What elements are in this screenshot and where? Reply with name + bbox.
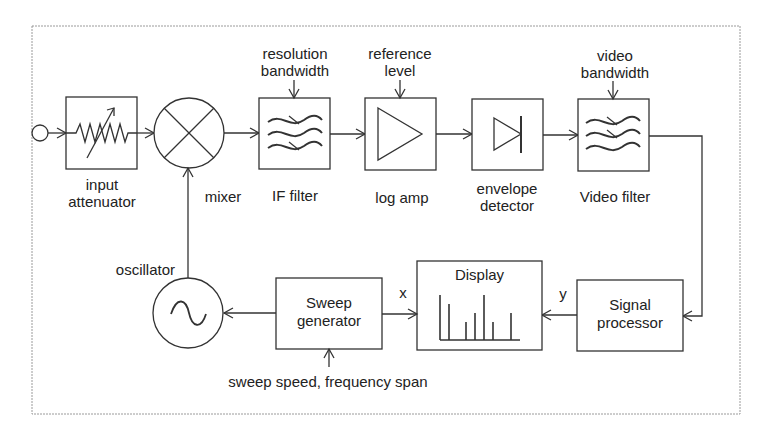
oscillator-icon [153,278,223,348]
label-line: bandwidth [570,64,660,81]
label-line: detector [467,197,547,214]
label-line: generator [276,312,382,330]
sweep-control-label: sweep speed, frequency span [218,373,438,390]
log-amp-label: log amp [362,189,442,206]
resolution-bandwidth-label: resolution bandwidth [250,45,340,79]
label-line: input [62,176,142,193]
label-line: processor [577,314,683,332]
display-label: Display [417,266,542,284]
outer-frame [32,26,740,414]
label-line: attenuator [62,193,142,210]
label-line: Signal [577,296,683,314]
input-port-icon [32,125,48,141]
label-line: Sweep [276,294,382,312]
envelope-detector-block [472,99,543,170]
label-line: level [360,62,440,79]
y-signal-label: y [556,285,570,302]
x-signal-label: x [396,284,410,301]
video-filter-label: Video filter [570,188,660,205]
label-line: envelope [467,180,547,197]
if-filter-label: IF filter [255,187,335,204]
label-line: video [570,47,660,64]
sweep-generator-label: Sweep generator [276,294,382,330]
label-line: resolution [250,45,340,62]
mixer-label: mixer [198,188,248,205]
oscillator-label: oscillator [100,261,175,278]
log-amp-block [365,98,436,170]
signal-processor-label: Signal processor [577,296,683,332]
mixer-icon [154,98,224,168]
video-bandwidth-label: video bandwidth [570,47,660,81]
reference-level-label: reference level [360,45,440,79]
label-line: reference [360,45,440,62]
spectrum-analyzer-diagram: input attenuator mixer resolution bandwi… [0,0,760,443]
label-line: bandwidth [250,62,340,79]
envelope-detector-label: envelope detector [467,180,547,214]
input-attenuator-label: input attenuator [62,176,142,210]
